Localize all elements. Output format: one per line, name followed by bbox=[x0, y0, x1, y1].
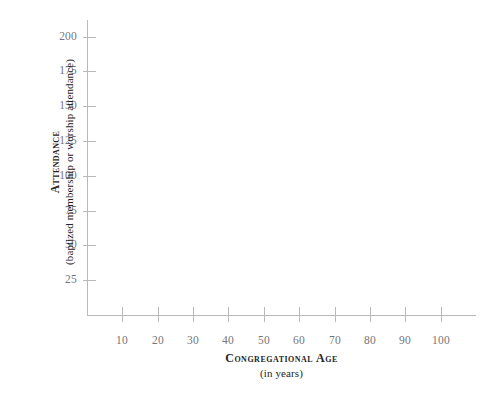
x-tick-label: 100 bbox=[421, 334, 461, 346]
x-tick-mark bbox=[370, 307, 371, 322]
y-tick-mark bbox=[83, 71, 96, 72]
x-tick-label: 40 bbox=[208, 334, 248, 346]
x-tick-label: 70 bbox=[315, 334, 355, 346]
x-tick-label: 90 bbox=[385, 334, 425, 346]
y-axis-line bbox=[87, 20, 88, 316]
x-tick-mark bbox=[228, 307, 229, 322]
x-tick-mark bbox=[193, 307, 194, 322]
x-tick-mark bbox=[122, 307, 123, 322]
y-tick-mark bbox=[83, 176, 96, 177]
y-tick-mark bbox=[83, 280, 96, 281]
chart-canvas: 255075100125150175200 102030405060708090… bbox=[0, 0, 496, 405]
x-tick-label: 80 bbox=[350, 334, 390, 346]
y-axis-title-main: Attendance bbox=[48, 12, 62, 312]
y-axis-title: Attendance (baptized membership or worsh… bbox=[48, 12, 80, 312]
x-axis-title-main: Congregational Age bbox=[87, 351, 476, 366]
x-tick-label: 60 bbox=[279, 334, 319, 346]
x-tick-label: 50 bbox=[244, 334, 284, 346]
y-tick-mark bbox=[83, 37, 96, 38]
x-tick-label: 10 bbox=[102, 334, 142, 346]
x-tick-mark bbox=[441, 307, 442, 322]
x-tick-mark bbox=[299, 307, 300, 322]
y-axis-title-sub: (baptized membership or worship attendan… bbox=[62, 12, 76, 312]
plot-area bbox=[88, 20, 476, 315]
y-tick-mark bbox=[83, 106, 96, 107]
x-tick-mark bbox=[335, 307, 336, 322]
y-tick-mark bbox=[83, 245, 96, 246]
x-tick-mark bbox=[264, 307, 265, 322]
x-axis-line bbox=[87, 315, 476, 316]
y-tick-mark bbox=[83, 141, 96, 142]
x-axis-title-sub: (in years) bbox=[87, 366, 476, 381]
x-tick-mark bbox=[405, 307, 406, 322]
x-tick-label: 30 bbox=[173, 334, 213, 346]
x-tick-label: 20 bbox=[138, 334, 178, 346]
x-tick-mark bbox=[158, 307, 159, 322]
x-axis-title: Congregational Age (in years) bbox=[87, 351, 476, 381]
y-tick-mark bbox=[83, 211, 96, 212]
